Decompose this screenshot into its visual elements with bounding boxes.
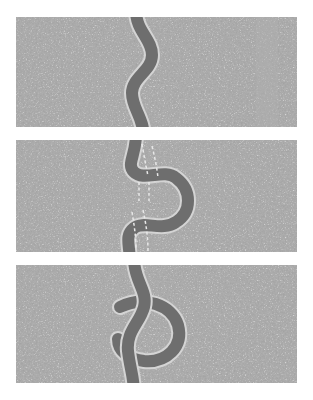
panel-1-canvas (16, 17, 297, 127)
panel-stage-2 (16, 140, 297, 252)
terrain-grain-2 (16, 140, 297, 252)
terrain-grain-1 (16, 17, 297, 127)
panel-stage-1 (16, 17, 297, 127)
panel-2-canvas (16, 140, 297, 252)
panel-3-canvas (16, 265, 297, 383)
panel-stage-3 (16, 265, 297, 383)
meander-formation-figure (0, 0, 313, 400)
terrain-streak-1 (256, 17, 278, 127)
